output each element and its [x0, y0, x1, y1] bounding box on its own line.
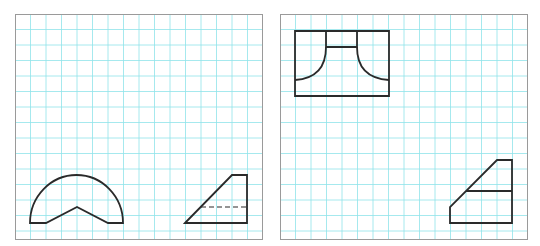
left-grid	[16, 15, 262, 239]
orthographic-drawing	[0, 0, 540, 246]
left-arc	[295, 47, 326, 80]
right-grid	[281, 15, 527, 239]
